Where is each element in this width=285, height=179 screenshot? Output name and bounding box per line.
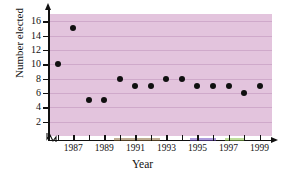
data-point — [55, 61, 61, 67]
x-axis-tick — [89, 135, 90, 141]
data-point — [148, 83, 154, 89]
data-point — [86, 97, 92, 103]
x-axis-tick-label: 1999 — [240, 143, 280, 154]
x-axis-tick — [229, 135, 230, 141]
x-axis-title: Year — [0, 158, 285, 170]
gridline — [50, 122, 272, 123]
y-axis-tick: 4 — [43, 107, 50, 108]
data-point — [101, 97, 107, 103]
data-point — [226, 83, 232, 89]
x-axis-tick — [166, 135, 167, 141]
x-axis-arrow-icon — [271, 137, 278, 143]
data-point — [257, 83, 263, 89]
y-axis-tick: 10 — [43, 64, 50, 65]
y-axis-tick-label: 12 — [31, 44, 41, 55]
data-point — [117, 76, 123, 82]
gridline — [50, 107, 272, 108]
x-axis-tick — [135, 135, 136, 141]
y-axis-tick-label: 6 — [36, 87, 41, 98]
x-axis-tick — [73, 135, 74, 141]
gridline — [50, 21, 272, 22]
x-axis-tick — [151, 135, 152, 141]
x-axis-tick — [244, 135, 245, 141]
x-axis-tick — [58, 135, 59, 141]
data-point — [163, 76, 169, 82]
y-axis-tick: 12 — [43, 50, 50, 51]
gridline — [50, 79, 272, 80]
x-axis-tick — [213, 135, 214, 141]
x-axis-tick — [182, 135, 183, 141]
data-point — [132, 83, 138, 89]
data-point — [210, 83, 216, 89]
gridline — [50, 50, 272, 51]
y-axis-tick: 8 — [43, 79, 50, 80]
x-axis-tick — [197, 135, 198, 141]
y-axis-tick: 2 — [43, 122, 50, 123]
y-axis-tick-label: 14 — [31, 30, 41, 41]
y-axis-tick: 16 — [43, 21, 50, 22]
y-axis-arrow-icon — [45, 3, 51, 10]
y-axis-tick-label: 2 — [36, 116, 41, 127]
gridline — [50, 64, 272, 65]
data-point — [194, 83, 200, 89]
scatter-chart-figure: 246810121416 198719891991199319951997199… — [0, 0, 285, 179]
x-axis-tick — [104, 135, 105, 141]
y-axis-tick: 6 — [43, 93, 50, 94]
plot-area — [50, 14, 272, 136]
y-axis-title: Number elected — [12, 0, 26, 98]
x-axis-tick — [120, 135, 121, 141]
data-point — [70, 25, 76, 31]
gridline — [50, 93, 272, 94]
y-axis-tick-label: 16 — [31, 15, 41, 26]
y-axis-tick-label: 8 — [36, 73, 41, 84]
y-axis-tick-label: 10 — [31, 58, 41, 69]
data-point — [179, 76, 185, 82]
data-point — [241, 90, 247, 96]
x-axis-tick — [260, 135, 261, 141]
y-axis-tick-label: 4 — [36, 101, 41, 112]
y-axis-tick: 14 — [43, 36, 50, 37]
gridline — [50, 36, 272, 37]
